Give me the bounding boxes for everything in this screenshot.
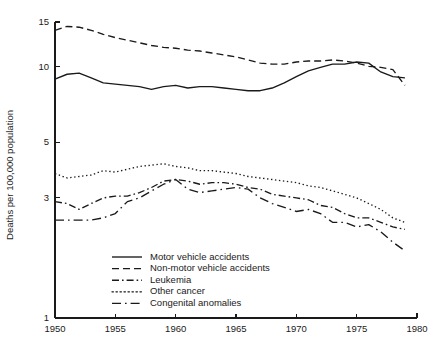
x-axis: 1950195519601965197019751980 bbox=[44, 313, 427, 334]
x-tick-label-1965: 1965 bbox=[225, 323, 246, 334]
x-tick-label-1955: 1955 bbox=[105, 323, 126, 334]
legend-label-congenital-anomalies: Congenital anomalies bbox=[150, 297, 242, 308]
x-tick-label-1970: 1970 bbox=[286, 323, 307, 334]
legend-label-non-motor-vehicle-accidents: Non-motor vehicle accidents bbox=[150, 262, 270, 273]
chart-canvas: 1351015 1950195519601965197019751980 Mot… bbox=[0, 0, 435, 362]
y-tick-label-3: 3 bbox=[44, 192, 49, 203]
y-axis-title: Deaths per 100,000 population bbox=[4, 110, 15, 240]
series-line-motor-vehicle-accidents bbox=[55, 62, 405, 91]
y-tick-label-5: 5 bbox=[44, 136, 49, 147]
x-tick-label-1980: 1980 bbox=[406, 323, 427, 334]
legend-label-other-cancer: Other cancer bbox=[150, 285, 205, 296]
x-tick-label-1960: 1960 bbox=[165, 323, 186, 334]
y-tick-label-10: 10 bbox=[38, 61, 49, 72]
x-tick-label-1975: 1975 bbox=[346, 323, 367, 334]
y-tick-label-15: 15 bbox=[38, 16, 49, 27]
line-chart-figure: 1351015 1950195519601965197019751980 Mot… bbox=[0, 0, 435, 362]
legend-label-leukemia: Leukemia bbox=[150, 274, 192, 285]
series-line-congenital-anomalies bbox=[55, 180, 405, 251]
series-line-leukemia bbox=[55, 180, 405, 230]
series-line-non-motor-vehicle-accidents bbox=[55, 26, 405, 85]
data-series-group bbox=[55, 26, 405, 250]
y-axis: 1351015 bbox=[38, 16, 60, 323]
legend-label-motor-vehicle-accidents: Motor vehicle accidents bbox=[150, 251, 250, 262]
y-tick-label-1: 1 bbox=[44, 312, 49, 323]
x-tick-label-1950: 1950 bbox=[44, 323, 65, 334]
series-line-other-cancer bbox=[55, 164, 405, 223]
chart-legend: Motor vehicle accidentsNon-motor vehicle… bbox=[112, 251, 270, 308]
